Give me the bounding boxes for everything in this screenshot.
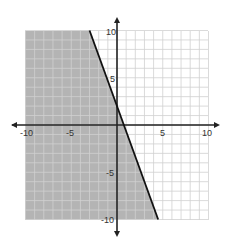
y-tick-neg10: -10 xyxy=(101,215,114,225)
x-tick-5: 5 xyxy=(160,128,165,138)
y-tick-10: 10 xyxy=(106,27,116,37)
y-tick-neg5: -5 xyxy=(106,168,114,178)
x-tick-neg5: -5 xyxy=(66,128,74,138)
y-tick-5: 5 xyxy=(110,74,115,84)
inequality-graph: -10 -5 5 10 10 5 -5 -10 xyxy=(0,0,227,242)
x-tick-neg10: -10 xyxy=(20,128,33,138)
x-tick-10: 10 xyxy=(202,128,212,138)
